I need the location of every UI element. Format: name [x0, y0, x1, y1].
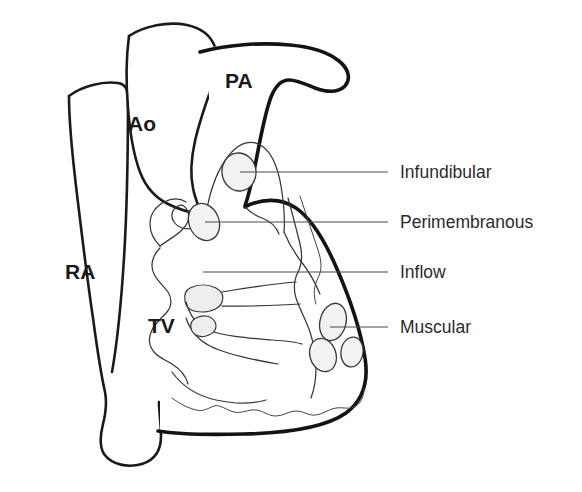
label-pulmonary-artery: PA — [225, 69, 253, 92]
callout-label-infundibular: Infundibular — [400, 162, 492, 182]
callout-label-muscular: Muscular — [400, 317, 471, 337]
label-aorta: Ao — [128, 112, 156, 135]
callout-label-inflow: Inflow — [400, 262, 446, 282]
callout-label-perimembranous: Perimembranous — [400, 212, 533, 232]
label-tricuspid-valve: TV — [148, 314, 175, 337]
anatomical-diagram-canvas: Infundibular Perimembranous Inflow Muscu… — [0, 0, 582, 492]
vsd-diagram-figure: Infundibular Perimembranous Inflow Muscu… — [0, 0, 582, 492]
label-right-atrium: RA — [65, 260, 95, 283]
